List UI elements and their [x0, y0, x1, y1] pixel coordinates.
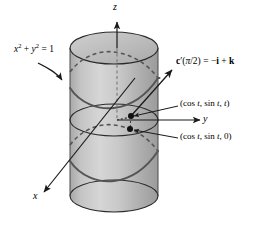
pl-mid: , sin [200, 131, 217, 141]
point-upper-label: (cos t, sin t, t) [180, 98, 230, 108]
x-axis-label: x [33, 190, 37, 201]
tv-half: /2) = − [190, 56, 216, 66]
pu-close: ) [227, 98, 230, 108]
point-lower-label: (cos t, sin t, 0) [180, 131, 232, 141]
cyl-eq-plus: + [21, 44, 31, 54]
leader-cylinder-equation [38, 63, 62, 80]
z-axis-label: z [113, 1, 117, 12]
pl-open: (cos [180, 131, 197, 141]
point-on-helix [128, 113, 134, 119]
pu-open: (cos [180, 98, 197, 108]
tv-k: k [229, 56, 234, 66]
cylinder-surface [70, 32, 158, 212]
pu-mid: , sin [200, 98, 217, 108]
figure-canvas [0, 0, 261, 229]
cylinder-bottom-ellipse [70, 180, 158, 212]
y-axis-label: y [203, 113, 207, 124]
cyl-eq-eq: = 1 [39, 44, 54, 54]
helix-cylinder-figure: z y x x2 + y2 = 1 c′(π/2) = −i + k (cos … [0, 0, 261, 229]
cylinder-equation-label: x2 + y2 = 1 [14, 42, 54, 54]
pl-close: , 0) [220, 131, 232, 141]
tangent-vector-label: c′(π/2) = −i + k [176, 56, 234, 66]
point-on-base-circle [127, 126, 133, 132]
tv-plus: + [219, 56, 229, 66]
